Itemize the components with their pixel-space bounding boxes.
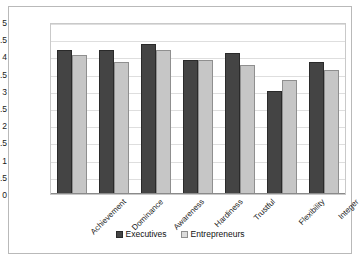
x-axis-label: Flexibility [297, 198, 326, 227]
x-axis-label: Hardiness [214, 198, 245, 229]
x-axis-label: Trustful [253, 198, 277, 222]
y-axis-tick-label: 1 [0, 156, 7, 165]
legend-label: Executives [126, 229, 167, 239]
y-axis-tick-label: 2.5 [0, 105, 7, 114]
legend-swatch [116, 231, 123, 238]
y-axis-tick-label: 1.5 [0, 139, 7, 148]
y-axis-tick-label: 4 [0, 53, 7, 62]
y-axis-tick-label: 0 [0, 191, 7, 200]
x-axis-label: Dominance [130, 198, 164, 232]
legend-label: Entrepreneurs [191, 229, 245, 239]
legend-item: Entrepreneurs [181, 229, 245, 239]
legend-swatch [181, 231, 188, 238]
y-axis-tick-label: 0.5 [0, 174, 7, 183]
y-axis-tick-label: 4.5 [0, 36, 7, 45]
chart-legend: ExecutivesEntrepreneurs [9, 229, 351, 239]
y-axis-ticks: 00.511.522.533.544.55 [50, 23, 346, 195]
x-axis-label: Integer [337, 198, 360, 221]
y-axis-tick-label: 2 [0, 122, 7, 131]
legend-item: Executives [116, 229, 167, 239]
y-axis-tick-label: 3 [0, 88, 7, 97]
y-axis-tick-label: 3.5 [0, 70, 7, 79]
chart-figure: 00.511.522.533.544.55 AchievementDominan… [0, 0, 360, 262]
x-axis-label: Awareness [172, 198, 206, 232]
y-axis-tick-label: 5 [0, 19, 7, 28]
chart-frame: 00.511.522.533.544.55 AchievementDominan… [8, 6, 352, 254]
